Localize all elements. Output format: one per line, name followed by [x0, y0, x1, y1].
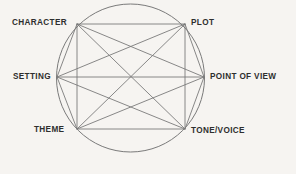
- node-vertex-character: [76, 23, 78, 25]
- edge-plot-setting: [57, 24, 185, 77]
- node-label-character: CHARACTER: [12, 19, 67, 27]
- connection-lines-group: [57, 24, 204, 129]
- node-label-tone-voice: TONE/VOICE: [191, 127, 245, 135]
- edge-pov-tone: [185, 77, 204, 129]
- node-vertex-plot: [184, 23, 186, 25]
- node-vertex-tone: [184, 128, 186, 130]
- edge-setting-tone: [57, 77, 185, 129]
- node-label-theme: THEME: [34, 126, 64, 134]
- node-label-setting: SETTING: [13, 73, 51, 81]
- edge-plot-pov: [185, 24, 204, 77]
- node-vertex-theme: [76, 128, 78, 130]
- node-label-point-of-view: POINT OF VIEW: [210, 73, 276, 81]
- edge-character-setting: [57, 24, 77, 77]
- node-label-plot: PLOT: [191, 19, 214, 27]
- node-vertex-setting: [56, 76, 58, 78]
- diagram-canvas: CHARACTER PLOT SETTING POINT OF VIEW THE…: [0, 0, 296, 174]
- edge-setting-theme: [57, 77, 77, 129]
- node-vertex-pov: [203, 76, 205, 78]
